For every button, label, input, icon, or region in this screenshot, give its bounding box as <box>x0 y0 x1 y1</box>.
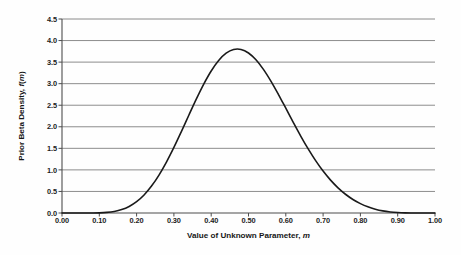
y-axis-title-var-f: f <box>17 84 26 87</box>
x-tick-label: 0.50 <box>229 216 269 225</box>
y-tick-label: 1.5 <box>33 144 57 153</box>
x-tick-label: 0.20 <box>117 216 157 225</box>
y-tick-label: 2.5 <box>33 101 57 110</box>
tick-marks-group <box>59 19 436 217</box>
y-tick-label: 4.5 <box>33 15 57 24</box>
y-tick-label: 0.5 <box>33 187 57 196</box>
y-tick-label: 4.0 <box>33 36 57 45</box>
y-axis-title-var-m: m <box>17 74 26 81</box>
y-tick-label: 3.5 <box>33 58 57 67</box>
x-axis-tick-labels: 0.000.100.200.300.400.500.600.700.800.90… <box>0 216 461 230</box>
axis-lines-group <box>62 19 435 213</box>
x-tick-label: 0.30 <box>154 216 194 225</box>
chart-figure: Prior Beta Density, f(m) 0.00.51.01.52.0… <box>0 0 461 255</box>
x-axis-title: Value of Unknown Parameter, m <box>62 231 435 240</box>
x-tick-label: 0.60 <box>266 216 306 225</box>
plot-svg <box>62 19 435 213</box>
x-tick-label: 0.70 <box>303 216 343 225</box>
x-tick-label: 0.40 <box>191 216 231 225</box>
x-tick-label: 0.80 <box>340 216 380 225</box>
beta-density-curve <box>62 49 435 213</box>
x-axis-title-text: Value of Unknown Parameter, <box>187 231 303 240</box>
y-axis-title-text: Prior Beta Density, <box>17 87 26 161</box>
x-tick-label: 0.90 <box>378 216 418 225</box>
y-axis-title-paren-close: ) <box>17 71 26 74</box>
x-tick-label: 0.10 <box>79 216 119 225</box>
y-tick-label: 2.0 <box>33 122 57 131</box>
gridlines-group <box>62 19 435 191</box>
y-axis-title-container: Prior Beta Density, f(m) <box>14 19 28 213</box>
y-axis-title: Prior Beta Density, f(m) <box>17 71 26 160</box>
x-tick-label: 1.00 <box>415 216 455 225</box>
y-tick-label: 1.0 <box>33 166 57 175</box>
x-tick-label: 0.00 <box>42 216 82 225</box>
plot-area <box>62 19 435 213</box>
y-tick-label: 3.0 <box>33 79 57 88</box>
x-axis-title-var: m <box>303 231 310 240</box>
